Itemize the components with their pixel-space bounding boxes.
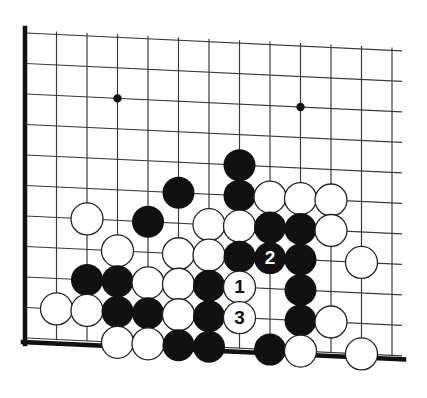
black-stone[interactable] — [193, 331, 225, 363]
black-stone[interactable] — [254, 212, 286, 244]
white-stone[interactable] — [315, 306, 347, 338]
black-stone[interactable] — [132, 297, 164, 329]
star-point — [296, 103, 304, 111]
white-stone[interactable] — [254, 181, 286, 213]
white-stone[interactable] — [102, 235, 134, 267]
grid-line-horizontal — [26, 64, 402, 82]
black-stone[interactable] — [254, 242, 286, 274]
black-stone[interactable] — [193, 300, 225, 332]
white-stone[interactable] — [132, 267, 164, 299]
white-stone[interactable] — [224, 302, 256, 334]
white-stone[interactable] — [285, 183, 317, 215]
black-stone[interactable] — [193, 270, 225, 302]
black-stone[interactable] — [285, 213, 317, 245]
black-stone[interactable] — [163, 329, 195, 361]
grid-line-horizontal — [26, 155, 402, 173]
goban-grid[interactable] — [0, 0, 427, 398]
white-stone[interactable] — [346, 338, 378, 370]
white-stone[interactable] — [193, 209, 225, 241]
white-stone[interactable] — [224, 271, 256, 303]
white-stone[interactable] — [224, 210, 256, 242]
white-stone[interactable] — [193, 239, 225, 271]
white-stone[interactable] — [102, 326, 134, 358]
black-stone[interactable] — [285, 274, 317, 306]
grid-line-horizontal — [26, 125, 402, 143]
black-stone[interactable] — [254, 334, 286, 366]
black-stone[interactable] — [163, 177, 195, 209]
white-stone[interactable] — [41, 293, 73, 325]
white-stone[interactable] — [346, 246, 378, 278]
white-stone[interactable] — [315, 215, 347, 247]
white-stone[interactable] — [285, 335, 317, 367]
black-stone[interactable] — [71, 264, 103, 296]
white-stone[interactable] — [132, 328, 164, 360]
black-stone[interactable] — [132, 206, 164, 238]
black-stone[interactable] — [102, 296, 134, 328]
white-stone[interactable] — [71, 294, 103, 326]
white-stone[interactable] — [315, 184, 347, 216]
black-stone[interactable] — [224, 241, 256, 273]
star-point — [113, 94, 121, 102]
grid-line-horizontal — [26, 94, 402, 112]
white-stone[interactable] — [71, 203, 103, 235]
grid-line-horizontal — [26, 33, 402, 51]
black-stone[interactable] — [224, 149, 256, 181]
go-board-diagram: 213 — [0, 0, 427, 398]
black-stone[interactable] — [285, 244, 317, 276]
white-stone[interactable] — [163, 299, 195, 331]
white-stone[interactable] — [163, 268, 195, 300]
white-stone[interactable] — [163, 238, 195, 270]
black-stone[interactable] — [102, 265, 134, 297]
black-stone[interactable] — [285, 305, 317, 337]
black-stone[interactable] — [224, 180, 256, 212]
